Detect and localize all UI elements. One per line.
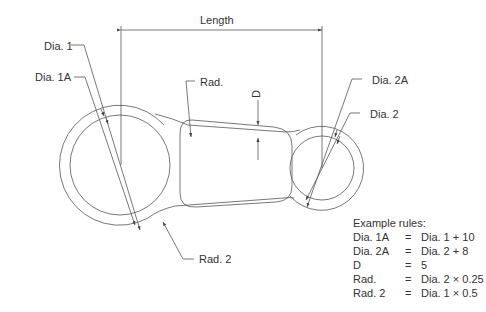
left-outer-circle xyxy=(59,105,164,225)
dia1a-label: Dia. 1A xyxy=(35,71,71,83)
length-label: Length xyxy=(200,14,234,26)
rad2-leader xyxy=(163,222,194,259)
dia2a-arrow-top xyxy=(335,130,337,137)
rule-row: Dia. 2A=Dia. 2 + 8 xyxy=(353,244,484,258)
rule-row: Rad. 2=Dia. 1 × 0.5 xyxy=(353,286,484,300)
rule-row: Rad.=Dia. 2 × 0.25 xyxy=(353,272,484,286)
shank-bottom-edge xyxy=(148,198,294,219)
dia2a-label: Dia. 2A xyxy=(372,74,408,86)
dia2-label: Dia. 2 xyxy=(370,108,399,120)
rule-row: Dia. 1A=Dia. 1 + 10 xyxy=(353,230,484,244)
dia1a-arrow-top xyxy=(106,118,108,124)
right-outer-circle xyxy=(290,126,364,210)
example-rules: Example rules: Dia. 1A=Dia. 1 + 10 Dia. … xyxy=(353,216,484,300)
rules-title: Example rules: xyxy=(353,216,484,230)
dia1-label: Dia. 1 xyxy=(44,40,73,52)
d-label: D xyxy=(250,90,262,98)
rad2-label: Rad. 2 xyxy=(199,253,231,265)
dia1a-leader xyxy=(74,77,135,225)
central-pocket xyxy=(180,120,292,207)
rule-row: D=5 xyxy=(353,258,484,272)
rad-leader xyxy=(186,81,195,137)
rad-label: Rad. xyxy=(200,76,223,88)
